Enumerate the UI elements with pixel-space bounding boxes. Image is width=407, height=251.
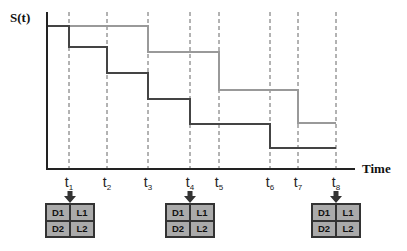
cell-l1: L1: [70, 204, 94, 221]
tick-t4: t4: [186, 174, 194, 192]
light-step-series: [69, 26, 336, 123]
cell-l1: L1: [190, 204, 214, 221]
cell-d1: D1: [46, 204, 70, 221]
cell-d2: D2: [46, 221, 70, 238]
tick-t5: t5: [215, 174, 223, 192]
state-grid-t4: D1 L1 D2 L2: [165, 203, 215, 238]
cell-l1: L1: [336, 204, 360, 221]
down-arrow-icon: [184, 191, 196, 203]
cell-d2: D2: [166, 221, 190, 238]
cell-d2: D2: [312, 221, 336, 238]
tick-t3: t3: [144, 174, 152, 192]
tick-t1: t1: [65, 174, 73, 192]
cell-d1: D1: [166, 204, 190, 221]
cell-l2: L2: [70, 221, 94, 238]
cell-d1: D1: [312, 204, 336, 221]
tick-t7: t7: [294, 174, 302, 192]
down-arrow-icon: [330, 191, 342, 203]
x-axis-label: Time: [362, 161, 391, 177]
down-arrow-icon: [64, 191, 76, 203]
tick-t8: t8: [332, 174, 340, 192]
y-axis-label: S(t): [10, 10, 30, 26]
dark-step-series: [47, 26, 336, 148]
state-grid-t1: D1 L1 D2 L2: [45, 203, 95, 238]
tick-t2: t2: [103, 174, 111, 192]
tick-t6: t6: [266, 174, 274, 192]
cell-l2: L2: [190, 221, 214, 238]
cell-l2: L2: [336, 221, 360, 238]
state-grid-t8: D1 L1 D2 L2: [311, 203, 361, 238]
